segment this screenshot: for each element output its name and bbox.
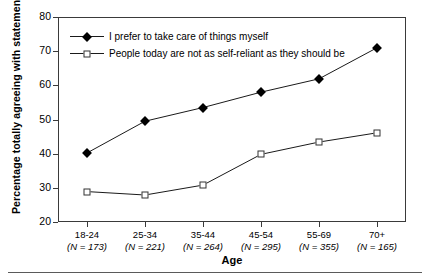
y-tick-label-50: 50 <box>11 113 51 125</box>
x-tick-sample-size: (N = 165) <box>332 241 422 253</box>
y-tick-label-30: 30 <box>11 181 51 193</box>
y-tick-label-20: 20 <box>11 215 51 227</box>
data-point-s2-18-24 <box>84 188 91 195</box>
legend-label-series-2: People today are not as self-reliant as … <box>104 48 345 59</box>
x-tick-mark-55-69 <box>319 222 320 227</box>
x-tick-mark-35-44 <box>203 222 204 227</box>
x-tick-category: 70+ <box>332 229 422 241</box>
legend-label-series-1: I prefer to take care of things myself <box>104 31 268 42</box>
open-square-marker-icon <box>84 50 91 57</box>
x-axis-title: Age <box>58 254 406 266</box>
y-tick-mark-20 <box>53 222 58 223</box>
y-tick-mark-50 <box>53 120 58 121</box>
legend-entry-series-1: I prefer to take care of things myself <box>70 28 345 45</box>
data-point-s2-25-34 <box>142 192 149 199</box>
y-tick-label-40: 40 <box>11 147 51 159</box>
filled-diamond-marker-icon <box>82 32 92 42</box>
y-tick-mark-60 <box>53 85 58 86</box>
legend-key-filled-diamond-icon <box>70 30 104 44</box>
y-tick-mark-30 <box>53 188 58 189</box>
legend-key-open-square-icon <box>70 47 104 61</box>
x-tick-label-70+: 70+(N = 165) <box>332 229 422 253</box>
chart-legend: I prefer to take care of things myself P… <box>70 28 345 62</box>
y-tick-label-70: 70 <box>11 44 51 56</box>
y-tick-mark-70 <box>53 51 58 52</box>
data-point-s2-45-54 <box>258 151 265 158</box>
legend-entry-series-2: People today are not as self-reliant as … <box>70 45 345 62</box>
data-point-s2-70+ <box>374 129 381 136</box>
chart-figure: Percentage totally agreeing with stateme… <box>0 0 430 280</box>
y-tick-mark-80 <box>53 17 58 18</box>
footer-divider <box>8 272 422 273</box>
x-tick-mark-18-24 <box>87 222 88 227</box>
x-tick-mark-25-34 <box>145 222 146 227</box>
data-point-s2-35-44 <box>200 182 207 189</box>
x-tick-mark-45-54 <box>261 222 262 227</box>
y-tick-label-80: 80 <box>11 10 51 22</box>
y-tick-label-60: 60 <box>11 78 51 90</box>
y-tick-mark-40 <box>53 154 58 155</box>
x-tick-mark-70+ <box>377 222 378 227</box>
data-point-s2-55-69 <box>316 139 323 146</box>
